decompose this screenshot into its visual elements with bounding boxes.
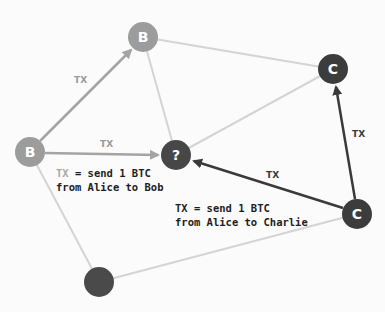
- svg-text:B: B: [25, 144, 36, 160]
- arrow-bleft-unknown: [45, 153, 158, 155]
- tx-label-bleft-unknown: TX: [100, 139, 113, 149]
- network-diagram: TX TX TX TX B B ? C C TX = send 1 BTC fr…: [0, 0, 385, 312]
- svg-text:C: C: [328, 61, 338, 77]
- plain-edges: [30, 37, 357, 282]
- diagram-graphics: TX TX TX TX B B ? C C: [0, 0, 385, 312]
- edge-unknown-ctop: [176, 69, 333, 155]
- node-c-bottom: C: [342, 199, 372, 229]
- svg-text:?: ?: [172, 147, 180, 163]
- arrow-cbottom-ctop: [336, 87, 355, 199]
- edge-btop-unknown: [143, 37, 172, 141]
- arrow-bleft-btop: [40, 50, 131, 141]
- tx-label-cbottom-unknown: TX: [266, 170, 279, 180]
- caption-charlie: TX = send 1 BTC from Alice to Charlie: [175, 201, 308, 229]
- node-dark-bottom: [84, 267, 114, 297]
- node-unknown: ?: [161, 140, 191, 170]
- node-b-top: B: [128, 22, 158, 52]
- node-b-left: B: [15, 137, 45, 167]
- tx-label-cbottom-ctop: TX: [352, 129, 365, 139]
- svg-text:B: B: [138, 29, 149, 45]
- edge-btop-ctop: [143, 37, 333, 69]
- caption-bob: TX = send 1 BTC from Alice to Bob: [56, 166, 163, 194]
- svg-text:C: C: [352, 206, 362, 222]
- tx-label-bleft-btop: TX: [74, 75, 87, 85]
- node-c-top: C: [318, 54, 348, 84]
